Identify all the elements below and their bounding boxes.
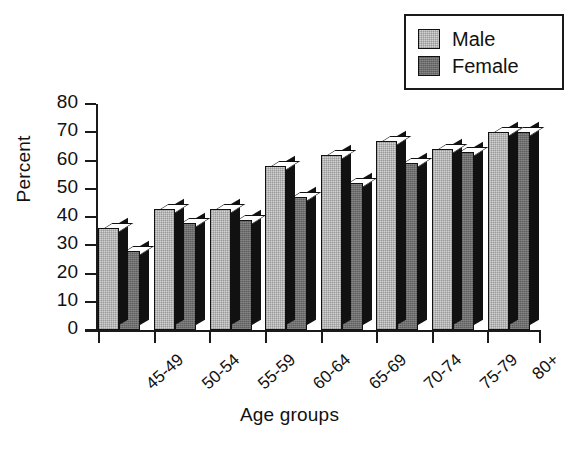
bar-side-face <box>509 122 518 325</box>
bar-side-face <box>196 212 205 325</box>
y-axis-tick: 50 <box>85 188 96 190</box>
x-axis-tick-label: 60-64 <box>309 350 355 394</box>
legend: MaleFemale <box>404 14 564 90</box>
x-axis-tick-label: 75-79 <box>476 350 522 394</box>
y-axis-tick-label: 60 <box>57 149 78 168</box>
bar-front-face <box>154 209 175 330</box>
bar-male-45-49 <box>98 228 119 330</box>
bar-side-face <box>231 198 240 325</box>
bar-male-75-79 <box>432 149 453 330</box>
x-axis-tick <box>98 332 100 343</box>
bar-side-face <box>252 210 261 325</box>
bar-side-face <box>175 198 184 325</box>
x-axis-tick <box>265 332 267 343</box>
y-axis-tick-label: 10 <box>57 290 78 309</box>
x-axis-tick <box>432 332 434 343</box>
bar-male-70-74 <box>376 141 397 330</box>
bar-male-80+ <box>488 132 509 330</box>
bar-male-50-54 <box>154 209 175 330</box>
x-axis-tick <box>376 332 378 343</box>
x-axis-tick-label: 45-49 <box>142 350 188 394</box>
bar-front-face <box>376 141 397 330</box>
bar-side-face <box>418 153 427 325</box>
y-axis-tick: 40 <box>85 216 96 218</box>
legend-item-male[interactable]: Male <box>418 25 552 52</box>
bar-side-face <box>530 122 539 325</box>
bar-side-face <box>474 142 483 325</box>
plot-area: 80706050403020100 45-4950-5455-5960-6465… <box>96 104 541 331</box>
x-axis-tick-label: 55-59 <box>254 350 300 394</box>
x-axis-tick-label: 50-54 <box>198 350 244 394</box>
bar-front-face <box>488 132 509 330</box>
x-axis-tick <box>209 332 211 343</box>
bar-front-face <box>98 228 119 330</box>
y-axis-tick: 20 <box>85 273 96 275</box>
x-axis-tick <box>321 332 323 343</box>
bar-front-face <box>265 166 286 330</box>
legend-swatch-female <box>418 56 440 76</box>
legend-label: Male <box>452 29 495 49</box>
y-axis-tick: 0 <box>85 329 96 331</box>
y-axis-tick-label: 50 <box>57 177 78 196</box>
y-axis-tick-label: 0 <box>67 318 78 337</box>
y-axis-tick-label: 80 <box>57 92 78 111</box>
bar-male-65-69 <box>321 155 342 330</box>
x-axis-tick-label: 65-69 <box>365 350 411 394</box>
bar-front-face <box>321 155 342 330</box>
bar-side-face <box>119 218 128 325</box>
x-axis-tick <box>487 332 489 343</box>
bar-chart: Percent Age groups 80706050403020100 45-… <box>0 0 579 453</box>
bar-male-55-59 <box>210 209 231 330</box>
bar-side-face <box>307 187 316 325</box>
x-axis-tick <box>539 332 541 343</box>
x-axis-tick-label: 80+ <box>528 350 563 384</box>
bar-side-face <box>397 131 406 325</box>
legend-item-female[interactable]: Female <box>418 52 552 79</box>
y-axis-tick: 70 <box>85 131 96 133</box>
y-axis-tick: 80 <box>85 103 96 105</box>
y-axis-tick: 60 <box>85 160 96 162</box>
x-axis-title: Age groups <box>0 404 579 426</box>
x-axis-tick-label: 70-74 <box>421 350 467 394</box>
y-axis-tick: 10 <box>85 301 96 303</box>
bar-side-face <box>342 145 351 325</box>
bar-front-face <box>432 149 453 330</box>
legend-label: Female <box>452 56 519 76</box>
y-axis-tick-label: 70 <box>57 120 78 139</box>
bar-male-60-64 <box>265 166 286 330</box>
y-axis-tick-label: 40 <box>57 205 78 224</box>
y-axis-tick: 30 <box>85 244 96 246</box>
bar-front-face <box>210 209 231 330</box>
y-axis-tick-label: 20 <box>57 262 78 281</box>
bar-side-face <box>286 156 295 325</box>
bar-side-face <box>453 139 462 325</box>
legend-swatch-male <box>418 29 440 49</box>
y-axis-tick-label: 30 <box>57 233 78 252</box>
x-axis-tick <box>154 332 156 343</box>
y-axis-title: Percent <box>13 109 35 229</box>
bar-side-face <box>363 173 372 325</box>
